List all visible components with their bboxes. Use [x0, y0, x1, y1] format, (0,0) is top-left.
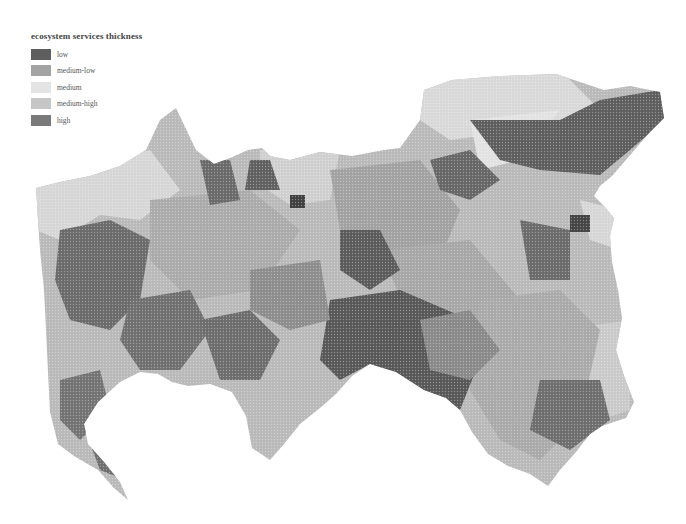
legend-title: ecosystem services thickness [31, 31, 201, 41]
swatch-medium-low [31, 65, 51, 76]
legend-item-low: low [31, 46, 201, 63]
swatch-low [31, 49, 51, 60]
swatch-high [31, 115, 51, 126]
legend-item-medium: medium [31, 79, 201, 96]
swatch-medium-high [31, 98, 51, 109]
legend-label: low [57, 50, 68, 59]
legend: ecosystem services thickness low medium-… [31, 31, 201, 129]
legend-label: medium [57, 83, 82, 92]
legend-item-medium-high: medium-high [31, 96, 201, 113]
legend-label: medium-low [57, 66, 95, 75]
legend-item-high: high [31, 112, 201, 129]
legend-label: medium-high [57, 99, 97, 108]
legend-item-medium-low: medium-low [31, 63, 201, 80]
swatch-medium [31, 82, 51, 93]
legend-label: high [57, 116, 70, 125]
